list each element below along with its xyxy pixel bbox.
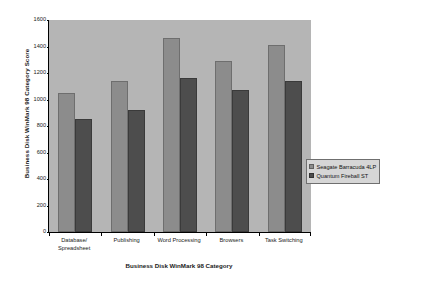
bar-group — [206, 20, 258, 232]
bar-group — [49, 20, 101, 232]
y-tick-label: 200 — [37, 202, 46, 208]
x-axis-category-line: Spreadsheet — [48, 245, 100, 253]
legend-item[interactable]: Quantum Fireball ST — [309, 171, 376, 180]
bar — [232, 90, 249, 232]
bar — [285, 81, 302, 232]
legend-item[interactable]: Seagate Barracuda 4LP — [309, 162, 376, 171]
x-tick-mark — [49, 232, 50, 236]
x-axis-category-label: Database/Spreadsheet — [48, 237, 100, 252]
y-tick-label: 1200 — [34, 69, 46, 75]
bar — [58, 93, 75, 232]
bar-groups — [49, 20, 311, 232]
y-tick-label: 1400 — [34, 43, 46, 49]
y-tick-label: 800 — [37, 122, 46, 128]
y-tick-label: 1600 — [34, 16, 46, 22]
y-tick-label: 1000 — [34, 96, 46, 102]
bar — [268, 45, 285, 232]
chart-legend: Seagate Barracuda 4LPQuantum Fireball ST — [306, 159, 380, 184]
bar — [111, 81, 128, 232]
bar — [75, 119, 92, 232]
y-axis-title: Business Disk WinMark 98 Category Score — [23, 9, 30, 219]
bar-group — [154, 20, 206, 232]
x-tick-mark — [310, 232, 311, 236]
bar — [128, 110, 145, 232]
x-tick-mark — [101, 232, 102, 236]
x-tick-mark — [206, 232, 207, 236]
x-axis-category-label: Task Switching — [258, 237, 310, 252]
bar-chart: Business Disk WinMark 98 Category Score … — [0, 0, 425, 285]
bar-group — [101, 20, 153, 232]
legend-swatch-icon — [309, 164, 314, 169]
x-axis-category-label: Browsers — [205, 237, 257, 252]
x-tick-mark — [259, 232, 260, 236]
x-axis-category-line: Task Switching — [258, 237, 310, 245]
x-tick-mark — [154, 232, 155, 236]
bar-group — [259, 20, 311, 232]
y-tick-label: 0 — [43, 228, 46, 234]
x-axis-category-line: Publishing — [100, 237, 152, 245]
x-axis-labels: Database/SpreadsheetPublishingWord Proce… — [48, 237, 310, 252]
bar — [215, 61, 232, 232]
bar — [163, 38, 180, 232]
x-axis-category-line: Word Processing — [153, 237, 205, 245]
x-axis-category-label: Publishing — [100, 237, 152, 252]
x-axis-category-line: Database/ — [48, 237, 100, 245]
legend-label: Quantum Fireball ST — [317, 173, 369, 179]
bar — [180, 78, 197, 232]
x-axis-category-label: Word Processing — [153, 237, 205, 252]
x-axis-category-line: Browsers — [205, 237, 257, 245]
legend-label: Seagate Barracuda 4LP — [317, 164, 377, 170]
y-tick-label: 600 — [37, 149, 46, 155]
x-axis-title: Business Disk WinMark 98 Category — [48, 262, 310, 269]
legend-swatch-icon — [309, 173, 314, 178]
plot-area: 02004006008001000120014001600 — [48, 20, 311, 233]
y-tick-label: 400 — [37, 175, 46, 181]
